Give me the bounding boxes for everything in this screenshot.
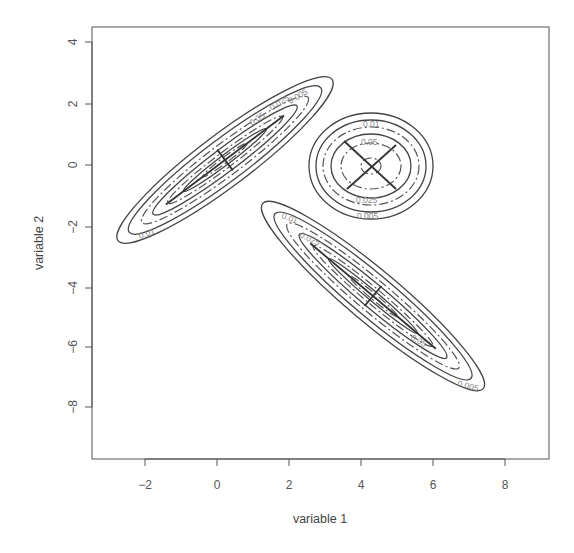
contour-label: 0.005 [456,378,479,393]
x-tick-label: 6 [430,478,437,492]
x-tick-label: 0 [214,478,221,492]
x-axis-title: variable 1 [293,512,347,526]
contour-label: 0.01 [280,210,299,225]
axis-1 [344,141,396,189]
contour-label: 0.05 [247,110,267,128]
contour-label: 0.005 [286,86,310,105]
x-axis: −2 0 2 4 6 8 variable 1 [138,459,509,526]
y-tick-label: −2 [66,220,80,234]
y-tick-label: 4 [66,38,80,45]
contour-label: 0.005 [357,211,379,221]
plot-frame [92,27,549,459]
contour-label: 0.025 [298,230,322,248]
y-axis-title: variable 2 [32,216,46,270]
y-tick-label: −6 [66,340,80,354]
contour-label: 0.05 [361,137,378,147]
contour-plot: 4 2 0 −2 −4 −6 −8 variable 2 −2 0 2 4 6 … [0,0,574,553]
contour-label: 0.025 [356,195,378,205]
y-axis: 4 2 0 −2 −4 −6 −8 variable 2 [32,38,92,414]
contour-label: 0.01 [137,226,156,241]
contour-label: 0.01 [363,119,380,129]
x-tick-label: 8 [502,478,509,492]
x-tick-label: −2 [138,478,152,492]
y-tick-label: −8 [66,400,80,414]
y-tick-label: 0 [66,161,80,168]
x-tick-label: 2 [286,478,293,492]
y-tick-label: 2 [66,100,80,107]
x-tick-label: 4 [358,478,365,492]
y-tick-label: −4 [66,281,80,295]
